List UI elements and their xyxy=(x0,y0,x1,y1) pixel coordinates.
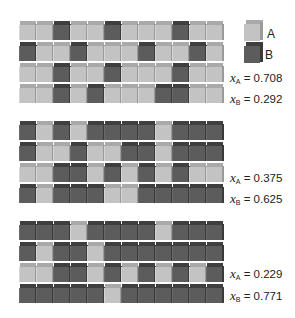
fraction-value: = 0.708 xyxy=(244,72,283,84)
lattice-row xyxy=(19,263,225,283)
cube-b-icon xyxy=(104,263,121,283)
cube-b-icon xyxy=(172,221,189,241)
cube-a-icon xyxy=(19,84,36,104)
cube-a-icon xyxy=(104,284,121,304)
cube-b-icon xyxy=(70,242,87,262)
cube-a-icon xyxy=(36,42,53,62)
cube-a-icon xyxy=(155,142,172,162)
block-1-fraction-a: xA = 0.708 xyxy=(230,70,282,86)
cube-b-icon xyxy=(19,142,36,162)
cube-b-icon xyxy=(36,221,53,241)
cube-a-icon xyxy=(155,263,172,283)
lattice-row xyxy=(19,63,225,83)
cube-b-icon xyxy=(87,121,104,141)
cube-a-icon xyxy=(19,21,36,41)
cube-b-icon xyxy=(189,184,206,204)
cube-b-icon xyxy=(172,263,189,283)
cube-b-icon xyxy=(206,142,223,162)
subscript: A xyxy=(236,178,241,185)
cube-b-icon xyxy=(138,163,155,183)
cube-b-icon xyxy=(53,121,70,141)
cube-a-icon xyxy=(138,84,155,104)
fraction-value: = 0.625 xyxy=(244,193,283,205)
lattice-row xyxy=(19,142,225,162)
cube-b-icon xyxy=(19,42,36,62)
cube-a-icon xyxy=(87,42,104,62)
cube-b-icon xyxy=(189,142,206,162)
cube-a-icon xyxy=(155,42,172,62)
cube-b-icon xyxy=(206,284,223,304)
block-2-fraction-b: xB = 0.625 xyxy=(230,191,282,207)
cube-b-icon xyxy=(206,184,223,204)
subscript: B xyxy=(236,199,241,206)
cube-b-icon xyxy=(172,242,189,262)
cube-a-icon xyxy=(104,142,121,162)
cube-b-icon xyxy=(70,163,87,183)
cube-b-icon xyxy=(189,284,206,304)
cube-b-icon xyxy=(53,242,70,262)
cube-a-icon xyxy=(70,21,87,41)
subscript: A xyxy=(236,274,241,281)
legend-label-b: B xyxy=(265,48,273,62)
cube-a-icon xyxy=(155,21,172,41)
subscript: A xyxy=(236,78,241,85)
fraction-value: = 0.292 xyxy=(244,93,283,105)
cube-b-icon xyxy=(172,284,189,304)
cube-a-icon xyxy=(155,63,172,83)
cube-b-icon xyxy=(189,242,206,262)
cube-b-icon xyxy=(19,121,36,141)
cube-b-icon xyxy=(189,42,206,62)
cube-b-icon xyxy=(172,142,189,162)
cube-b-icon xyxy=(104,21,121,41)
cube-b-icon xyxy=(70,42,87,62)
cube-b-icon xyxy=(138,42,155,62)
cube-b-icon xyxy=(53,284,70,304)
block-1-fraction-b: xB = 0.292 xyxy=(230,91,282,107)
fraction-value: = 0.375 xyxy=(244,172,283,184)
cube-b-icon xyxy=(138,242,155,262)
cube-a-icon xyxy=(104,184,121,204)
cube-a-icon xyxy=(36,184,53,204)
cube-a-icon xyxy=(87,242,104,262)
cube-b-icon xyxy=(53,84,70,104)
cube-a-icon xyxy=(36,263,53,283)
cube-a-icon xyxy=(36,142,53,162)
lattice-row xyxy=(19,84,225,104)
cube-b-icon xyxy=(206,121,223,141)
cube-b-icon xyxy=(206,221,223,241)
block-3-fraction-b: xB = 0.771 xyxy=(230,288,282,304)
cube-a-icon xyxy=(121,184,138,204)
cube-a-icon xyxy=(87,63,104,83)
cube-b-icon xyxy=(53,163,70,183)
block-2-fraction-a: xA = 0.375 xyxy=(230,170,282,186)
cube-a-icon xyxy=(36,84,53,104)
cube-a-icon xyxy=(155,221,172,241)
cube-a-icon xyxy=(121,63,138,83)
cube-a-icon xyxy=(121,163,138,183)
cube-a-icon xyxy=(189,163,206,183)
cube-a-icon xyxy=(121,21,138,41)
cube-b-icon xyxy=(70,284,87,304)
cube-b-icon xyxy=(172,21,189,41)
cube-b-icon xyxy=(172,84,189,104)
cube-b-icon xyxy=(70,142,87,162)
cube-a-icon xyxy=(36,21,53,41)
cube-b-icon xyxy=(155,184,172,204)
cube-a-icon xyxy=(87,263,104,283)
cube-a-icon xyxy=(121,84,138,104)
cube-b-icon xyxy=(121,142,138,162)
cube-b-icon xyxy=(53,221,70,241)
cube-b-icon xyxy=(19,221,36,241)
cube-a-icon xyxy=(70,84,87,104)
cube-a-icon xyxy=(70,221,87,241)
cube-a-icon xyxy=(206,163,223,183)
cube-a-icon xyxy=(121,42,138,62)
cube-a-icon xyxy=(19,263,36,283)
lattice-row xyxy=(19,284,225,304)
cube-a-icon xyxy=(19,163,36,183)
cube-a-icon xyxy=(172,42,189,62)
cube-b-icon xyxy=(172,184,189,204)
cube-b-icon xyxy=(189,221,206,241)
cube-b-icon xyxy=(138,142,155,162)
cube-b-icon xyxy=(206,263,223,283)
